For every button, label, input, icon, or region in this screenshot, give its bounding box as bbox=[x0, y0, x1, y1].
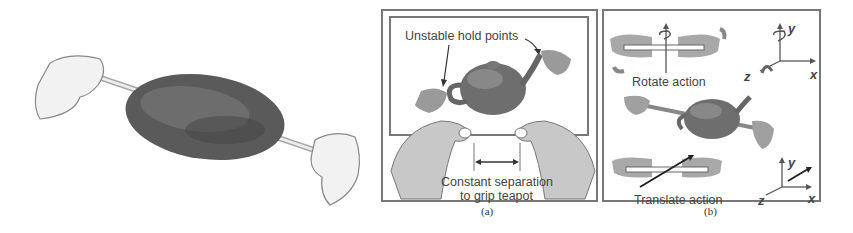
panel-b-drawing bbox=[602, 9, 821, 202]
axis-bottom-x: x bbox=[808, 191, 815, 206]
axis-top-z: z bbox=[744, 69, 751, 84]
separation-label-line1: Constant separation bbox=[441, 175, 553, 189]
panel-a-drawing bbox=[381, 9, 598, 202]
axis-bottom-y: y bbox=[788, 155, 795, 170]
axis-top-y: y bbox=[788, 21, 795, 36]
rotisserie-drawing bbox=[30, 45, 365, 215]
panel-a: Unstable hold points Constant separation… bbox=[381, 9, 598, 202]
axis-bottom-z: z bbox=[758, 193, 765, 208]
rotisserie-illustration bbox=[30, 45, 365, 215]
panel-b: Rotate action Translate action y x z y x… bbox=[602, 9, 821, 202]
rotate-action-label: Rotate action bbox=[632, 75, 706, 89]
caption-a: (a) bbox=[481, 205, 493, 217]
caption-b: (b) bbox=[704, 205, 717, 217]
axis-top-x: x bbox=[810, 67, 817, 82]
separation-label-line2: to grip teapot bbox=[460, 189, 533, 203]
